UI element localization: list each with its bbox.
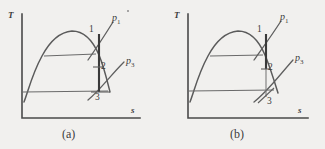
panel-a: T s 1 2 3 p1 p3 (a): [0, 0, 162, 149]
isobar-p3-curve-a: [88, 62, 124, 100]
state-point-3-label-a: 3: [95, 93, 100, 103]
y-axis-label-a: T: [8, 11, 14, 20]
axis-lines-a: [22, 14, 140, 118]
isobar-upper-line-b: [210, 55, 263, 56]
x-axis-label-b: s: [298, 106, 302, 115]
scan-speck: [127, 10, 129, 12]
y-axis-label-b: T: [174, 11, 180, 20]
state-point-1-label-a: 1: [89, 25, 94, 35]
state-point-3-label-b: 3: [267, 97, 272, 107]
state-point-1-label-b: 1: [257, 25, 262, 35]
panel-b-caption: (b): [230, 128, 244, 140]
isobar-p1-label-a: p1: [112, 13, 121, 26]
state-point-2-label-a: 2: [101, 62, 106, 72]
x-axis-label-a: s: [131, 106, 135, 115]
isobar-p1-label-b: p1: [280, 12, 289, 25]
isobar-upper-line-a: [44, 54, 96, 56]
isobar-p3-label-b: p3: [295, 53, 304, 66]
panel-b: T s 1 2 3 p1 p3 (b): [162, 0, 324, 149]
panel-a-drawing: [0, 0, 162, 149]
figure-two-ts-diagrams: T s 1 2 3 p1 p3 (a): [0, 0, 325, 149]
isobar-lower-line-b: [189, 90, 274, 91]
isobar-p3-label-a: p3: [126, 56, 135, 69]
state-point-2-label-b: 2: [268, 63, 273, 73]
axis-lines-b: [188, 14, 308, 118]
panel-a-caption: (a): [62, 128, 75, 140]
